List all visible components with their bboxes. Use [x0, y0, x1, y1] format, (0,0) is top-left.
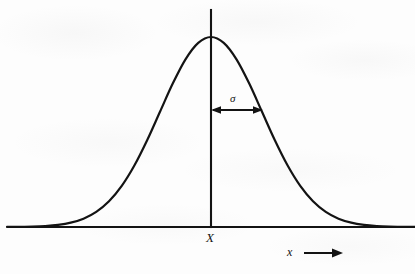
x-axis-label: x	[287, 246, 292, 258]
sigma-arrow-head-left	[211, 106, 221, 114]
normal-distribution-figure: X x σ	[0, 0, 415, 274]
x-axis-direction-arrow	[304, 249, 343, 258]
mean-axis-label: X	[206, 231, 214, 244]
sigma-label: σ	[230, 93, 235, 104]
x-direction-arrow-head	[332, 249, 343, 258]
sigma-span-arrow	[211, 106, 263, 114]
